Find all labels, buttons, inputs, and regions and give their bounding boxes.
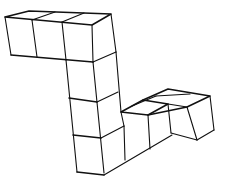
cube-drawing <box>0 0 228 184</box>
cube-structure-diagram <box>0 0 228 184</box>
top-row-cubes <box>5 11 116 62</box>
bottom-row-cubes <box>104 96 172 175</box>
vertical-column-cubes <box>66 52 124 175</box>
